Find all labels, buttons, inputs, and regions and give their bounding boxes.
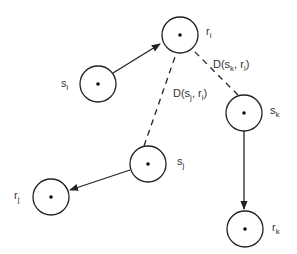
label-r-j: rj <box>14 190 19 204</box>
node-r-j <box>33 179 69 215</box>
label-s-k: sk <box>270 105 280 119</box>
node-s-j <box>130 146 166 182</box>
label-s-j: sj <box>177 156 184 170</box>
node-r-i <box>162 17 198 53</box>
label-distance-sj-ri: D(sj, ri) <box>173 88 207 102</box>
node-s-i <box>80 66 116 102</box>
label-r-k: rk <box>272 222 280 236</box>
node-r-k <box>227 211 263 247</box>
dashed-sj-ri <box>144 54 176 146</box>
diagram-canvas <box>0 0 297 254</box>
edge-sj-rj <box>70 170 130 190</box>
edge-si-ri <box>113 44 160 73</box>
label-s-i: si <box>61 78 68 92</box>
node-s-k <box>226 95 262 131</box>
label-r-i: ri <box>206 26 211 40</box>
label-distance-sk-ri: D(sk, ri) <box>213 59 249 73</box>
